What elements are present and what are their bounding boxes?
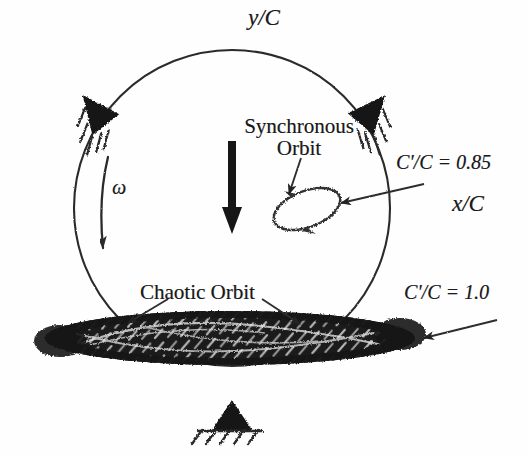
synchronous-orbit-label-line1: Synchronous [234, 115, 364, 137]
support-bottom [192, 400, 262, 444]
leader-synchronous-orbit [289, 158, 301, 194]
synchronous-orbit-label-line2: Orbit [234, 137, 364, 159]
omega-rotation-arrow [101, 157, 108, 248]
synchronous-orbit-label: Synchronous Orbit [234, 115, 364, 159]
leader-ratio-085 [341, 184, 424, 203]
chaotic-orbit [34, 311, 426, 365]
eccentricity-ratio-085-label: C'/C = 0.85 [396, 152, 491, 173]
leader-ratio-10 [424, 320, 497, 338]
y-axis-label: y/C [248, 6, 280, 30]
eccentricity-ratio-10-label: C'/C = 1.0 [404, 282, 489, 303]
figure-root: y/C x/C ω Synchronous Orbit Chaotic Orbi… [0, 0, 527, 456]
chaotic-orbit-label: Chaotic Orbit [140, 281, 255, 303]
omega-label: ω [112, 177, 126, 198]
diagram-canvas [0, 0, 527, 456]
support-upper-left [56, 84, 130, 159]
x-axis-label: x/C [452, 192, 484, 216]
